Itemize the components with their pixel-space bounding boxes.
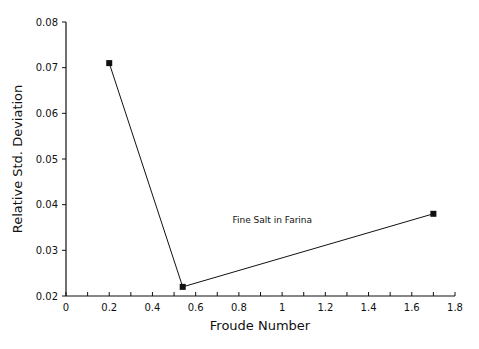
x-tick-label: 1	[279, 302, 285, 313]
x-tick-label: 1.2	[317, 302, 333, 313]
data-series	[106, 60, 436, 290]
series-line	[109, 63, 433, 287]
x-tick-label: 1.4	[361, 302, 377, 313]
x-axis-ticks: 00.20.40.60.811.21.41.61.8	[63, 292, 463, 313]
y-tick-label: 0.03	[36, 245, 58, 256]
x-tick-label: 1.8	[447, 302, 463, 313]
data-point-marker	[430, 211, 436, 217]
axes	[66, 22, 455, 296]
y-axis-label: Relative Std. Deviation	[10, 85, 25, 234]
chart: 00.20.40.60.811.21.41.61.8 0.020.030.040…	[0, 0, 479, 349]
y-axis-ticks: 0.020.030.040.050.060.070.08	[36, 17, 66, 302]
y-tick-label: 0.06	[36, 108, 58, 119]
x-tick-label: 0.2	[101, 302, 117, 313]
x-tick-label: 0.8	[231, 302, 247, 313]
series-annotation: Fine Salt in Farina	[233, 215, 313, 225]
x-tick-label: 0.6	[188, 302, 204, 313]
x-tick-label: 1.6	[404, 302, 420, 313]
data-point-marker	[180, 284, 186, 290]
x-axis-label: Froude Number	[210, 318, 311, 333]
y-tick-label: 0.07	[36, 62, 58, 73]
y-tick-label: 0.08	[36, 17, 58, 28]
x-tick-label: 0	[63, 302, 69, 313]
data-point-marker	[106, 60, 112, 66]
y-tick-label: 0.04	[36, 199, 58, 210]
y-tick-label: 0.02	[36, 291, 58, 302]
y-tick-label: 0.05	[36, 154, 58, 165]
x-tick-label: 0.4	[144, 302, 160, 313]
